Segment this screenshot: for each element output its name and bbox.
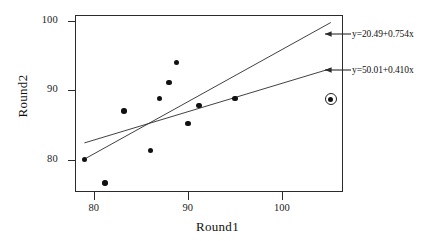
x-axis-tick-label: 100: [265, 202, 299, 213]
regression-lines-layer: [75, 15, 343, 192]
data-point: [148, 148, 153, 153]
data-point: [174, 60, 179, 65]
data-point: [166, 80, 171, 85]
x-axis-tick-mark: [188, 192, 189, 200]
y-axis-tick-mark: [68, 21, 75, 22]
data-point: [82, 157, 87, 162]
scatter-plot-figure: 8090100 8090100 y=20.49+0.754x y=50.01+0…: [0, 0, 435, 241]
regression-line-1: [84, 23, 330, 160]
x-axis-tick-label: 90: [171, 202, 205, 213]
highlighted-point-ring: [325, 93, 337, 105]
data-point: [121, 108, 126, 113]
data-point: [157, 96, 162, 101]
data-point: [185, 121, 190, 126]
y-axis-tick-label: 80: [47, 153, 58, 164]
x-axis-title: Round1: [0, 219, 435, 235]
x-axis-tick-mark: [94, 192, 95, 200]
regression-equation-label-1: y=20.49+0.754x: [352, 29, 414, 39]
y-axis-title: Round2: [15, 41, 31, 151]
plot-data-area: [75, 15, 343, 192]
data-point: [232, 96, 237, 101]
y-axis-tick-label: 100: [42, 14, 58, 25]
data-point: [196, 103, 201, 108]
regression-line-2: [84, 69, 330, 143]
data-point: [102, 180, 107, 185]
regression-equation-label-2: y=50.01+0.410x: [352, 65, 414, 75]
x-axis-tick-mark: [282, 192, 283, 200]
y-axis-tick-mark: [68, 160, 75, 161]
y-axis-tick-label: 90: [47, 83, 58, 94]
y-axis-tick-mark: [68, 90, 75, 91]
x-axis-tick-label: 80: [77, 202, 111, 213]
